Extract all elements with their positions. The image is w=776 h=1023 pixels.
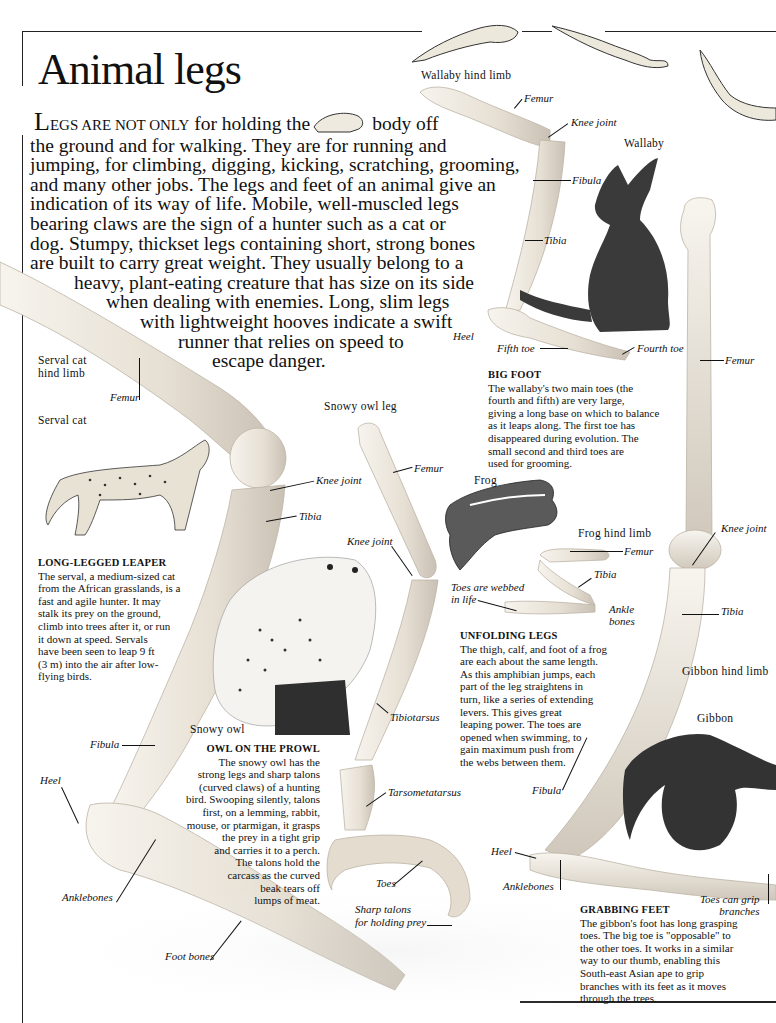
leader-line bbox=[427, 925, 452, 926]
gibbon-fibula-label: Fibula bbox=[532, 784, 561, 796]
frog-webbed-toes-label: Toes are webbed in life bbox=[451, 581, 524, 605]
frog-animal-name: Frog bbox=[474, 474, 497, 486]
owl-tarsometatarsus-label: Tarsometatarsus bbox=[388, 786, 461, 798]
serval-anklebones-label: Anklebones bbox=[62, 891, 113, 903]
owl-knee-joint-label: Knee joint bbox=[347, 535, 393, 547]
serval-knee-joint-label: Knee joint bbox=[316, 474, 362, 486]
gibbon-tibia-label: Tibia bbox=[721, 605, 744, 617]
serval-femur-label: Femur bbox=[110, 391, 139, 403]
leader-line bbox=[570, 551, 623, 552]
caption-heading: OWL ON THE PROWL bbox=[160, 743, 320, 756]
frog-ankle-bones-label: Ankle bones bbox=[609, 603, 635, 627]
owl-toes-label: Toes bbox=[376, 877, 396, 889]
frog-caption: UNFOLDING LEGS The thigh, calf, and foot… bbox=[460, 630, 640, 769]
intro-dropcap: L bbox=[34, 107, 50, 136]
leader-line bbox=[700, 360, 724, 361]
wallaby-femur-label: Femur bbox=[524, 92, 553, 104]
frog-limb-title: Frog hind limb bbox=[578, 527, 651, 539]
owl-animal-name: Snowy owl bbox=[190, 723, 245, 735]
gibbon-anklebones-label: Anklebones bbox=[503, 880, 554, 892]
owl-caption: OWL ON THE PROWL The snowy owl has the s… bbox=[160, 743, 320, 907]
gibbon-animal-image bbox=[623, 734, 776, 850]
owl-femur-label: Femur bbox=[414, 462, 443, 474]
serval-heel-label: Heel bbox=[40, 774, 61, 786]
leader-line bbox=[682, 614, 719, 615]
caption-heading: LONG-LEGGED LEAPER bbox=[38, 557, 228, 570]
owl-tibiotarsus-label: Tibiotarsus bbox=[390, 711, 440, 723]
gibbon-animal-name: Gibbon bbox=[697, 712, 733, 724]
serval-cat-image bbox=[46, 440, 209, 535]
frog-animal-image bbox=[446, 480, 557, 570]
serval-fibula-label: Fibula bbox=[90, 738, 119, 750]
frog-tibia-label: Tibia bbox=[594, 568, 617, 580]
page-title: Animal legs bbox=[38, 44, 241, 95]
wallaby-limb-title: Wallaby hind limb bbox=[421, 69, 511, 81]
serval-tibia-label: Tibia bbox=[299, 510, 322, 522]
wallaby-fibula-label: Fibula bbox=[572, 174, 601, 186]
serval-caption: LONG-LEGGED LEAPER The serval, a medium-… bbox=[38, 557, 228, 683]
gibbon-femur-label: Femur bbox=[725, 354, 754, 366]
wallaby-caption: BIG FOOT The wallaby's two main toes (th… bbox=[488, 369, 688, 470]
owl-limb-title: Snowy owl leg bbox=[324, 400, 397, 412]
serval-limb-title: Serval cat hind limb bbox=[38, 354, 87, 380]
caption-heading: UNFOLDING LEGS bbox=[460, 630, 640, 643]
wallaby-tibia-label: Tibia bbox=[544, 234, 567, 246]
wallaby-fifth-toe-label: Fifth toe bbox=[497, 342, 535, 354]
intro-smallcaps: EGS ARE NOT ONLY bbox=[50, 117, 189, 133]
wallaby-animal-name: Wallaby bbox=[624, 137, 664, 149]
gibbon-heel-label: Heel bbox=[491, 845, 512, 857]
owl-talons-label: Sharp talons for holding prey bbox=[355, 903, 426, 929]
wallaby-fourth-toe-label: Fourth toe bbox=[637, 342, 684, 354]
leader-line bbox=[560, 860, 561, 890]
caption-heading: BIG FOOT bbox=[488, 369, 688, 382]
frog-femur-label: Femur bbox=[624, 545, 653, 557]
leader-line bbox=[525, 240, 543, 241]
gibbon-knee-joint-label: Knee joint bbox=[721, 522, 767, 534]
serval-animal-name: Serval cat bbox=[38, 414, 87, 426]
gibbon-caption: GRABBING FEET The gibbon's foot has long… bbox=[580, 904, 776, 1005]
wallaby-heel-label: Heel bbox=[453, 330, 474, 342]
leader-line bbox=[122, 745, 155, 746]
serval-foot-bones-label: Foot bones bbox=[165, 950, 214, 962]
gibbon-limb-title: Gibbon hind limb bbox=[682, 665, 769, 677]
leader-line bbox=[540, 348, 568, 349]
caption-heading: GRABBING FEET bbox=[580, 904, 776, 917]
leader-line bbox=[139, 358, 140, 400]
leader-line bbox=[533, 180, 571, 181]
wallaby-knee-joint-label: Knee joint bbox=[571, 116, 617, 128]
leader-line bbox=[768, 874, 769, 904]
